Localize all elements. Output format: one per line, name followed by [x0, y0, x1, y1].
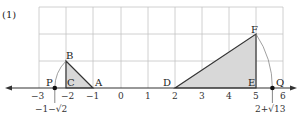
- label-a: A: [94, 77, 103, 88]
- svg-text:−2: −2: [61, 91, 74, 101]
- svg-text:6: 6: [280, 91, 286, 101]
- arrow-right-icon: [290, 86, 297, 91]
- svg-text:5: 5: [253, 91, 259, 101]
- number-line-diagram: (1) P C A B D E F Q −3 −2 −1 0 1 2 3 4 5…: [0, 0, 298, 117]
- label-b: B: [66, 50, 73, 61]
- arc-b-to-p: [55, 61, 66, 88]
- label-f: F: [251, 24, 258, 35]
- point-q-dot: [270, 86, 275, 91]
- svg-text:0: 0: [118, 91, 124, 101]
- q-value-label: 2+√13: [255, 104, 286, 114]
- svg-text:2: 2: [172, 91, 178, 101]
- svg-text:1: 1: [145, 91, 151, 101]
- problem-label: (1): [2, 9, 16, 20]
- svg-text:4: 4: [226, 91, 232, 101]
- label-e: E: [248, 77, 255, 88]
- svg-text:3: 3: [199, 91, 205, 101]
- svg-text:−1: −1: [86, 91, 99, 101]
- arrow-left-icon: [5, 86, 12, 91]
- point-p-dot: [53, 86, 58, 91]
- label-c: C: [67, 77, 75, 88]
- label-q: Q: [276, 77, 284, 88]
- label-d: D: [163, 77, 171, 88]
- tick-labels: −3 −2 −1 0 1 2 3 4 5 6: [31, 91, 286, 101]
- label-p: P: [46, 77, 53, 88]
- svg-text:−3: −3: [31, 91, 45, 101]
- p-value-label: −1−√2: [35, 104, 67, 114]
